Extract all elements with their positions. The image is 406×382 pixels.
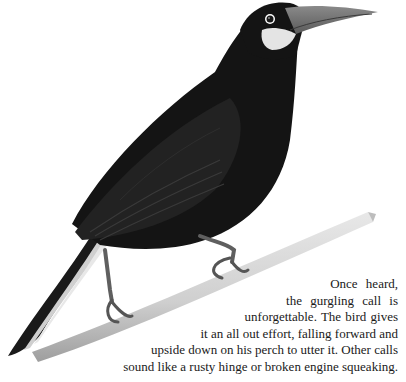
text-line-6: sound like a rusty hinge or broken engin… <box>123 359 398 376</box>
bird-head <box>240 2 378 59</box>
text-line-2: the gurgling call is <box>123 293 398 310</box>
text-line-5: upside down on his perch to utter it. Ot… <box>123 342 398 359</box>
bird-beak <box>285 6 378 34</box>
caption-text: Once heard, the gurgling call is unforge… <box>123 276 398 375</box>
text-line-3: unforgettable. The bird gives <box>123 309 398 326</box>
text-line-1: Once heard, <box>123 276 398 293</box>
text-line-4: it an all out effort, falling forward an… <box>123 326 398 343</box>
